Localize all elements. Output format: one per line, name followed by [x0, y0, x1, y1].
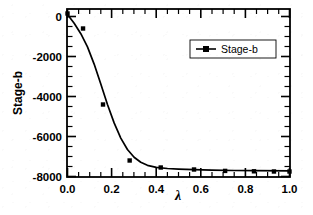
x-tick-label: 0.4 — [148, 183, 165, 195]
x-tick-label: 0.0 — [60, 183, 76, 195]
data-point-marker — [192, 167, 196, 171]
data-point-marker — [101, 102, 105, 106]
x-tick-label: 0.2 — [104, 183, 120, 195]
data-point-marker — [65, 11, 69, 15]
y-tick-label: -6000 — [33, 131, 62, 143]
x-tick-label: 1.0 — [282, 183, 298, 195]
y-tick-label: 0 — [56, 11, 62, 23]
x-axis-title: λ — [174, 188, 181, 203]
y-tick-label: -2000 — [33, 51, 62, 63]
chart-figure: 0 -2000 -4000 -6000 -8000 0.0 0.2 0.4 0.… — [0, 0, 313, 215]
data-point-marker — [81, 26, 85, 30]
legend-marker-icon — [203, 46, 209, 52]
data-point-marker — [252, 169, 256, 173]
data-point-marker — [272, 169, 276, 173]
data-point-marker — [127, 158, 131, 162]
y-tick-label: -8000 — [33, 171, 62, 183]
data-point-marker — [223, 169, 227, 173]
y-tick-label: -4000 — [33, 91, 62, 103]
data-point-marker — [287, 169, 291, 173]
y-axis-title: Stage-b — [11, 71, 25, 115]
x-tick-label: 0.6 — [193, 183, 209, 195]
x-tick-label: 0.8 — [237, 183, 254, 195]
data-point-marker — [159, 165, 163, 169]
legend[interactable]: Stage-b — [190, 40, 276, 58]
legend-label: Stage-b — [221, 43, 258, 55]
